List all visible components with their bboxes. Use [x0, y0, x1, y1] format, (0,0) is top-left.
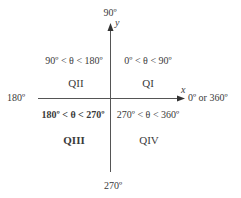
x-axis-label: x: [181, 85, 185, 95]
angle-label-270: 270º: [104, 181, 122, 191]
y-axis-arrow-icon: [108, 23, 114, 31]
x-axis-arrow-icon: [177, 96, 185, 102]
quadrant-iii-range: 180º < θ < 270º: [41, 110, 104, 120]
quadrant-iv-range: 270º < θ < 360º: [117, 110, 179, 120]
y-axis-label: y: [115, 18, 119, 28]
angle-label-180: 180º: [7, 93, 25, 103]
quadrant-iii-label: QIII: [63, 135, 84, 146]
quadrant-ii-range: 90º < θ < 180º: [45, 56, 102, 66]
quadrant-i-label: QI: [142, 78, 154, 89]
angle-label-0-or-360: 0º or 360º: [188, 93, 228, 103]
quadrant-ii-label: QII: [68, 78, 83, 89]
quadrant-iv-label: QIV: [139, 135, 159, 146]
quadrant-i-range: 0º < θ < 90º: [124, 56, 171, 66]
